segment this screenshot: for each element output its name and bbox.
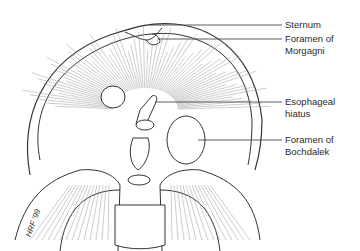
muscle-fiber <box>30 95 112 106</box>
aortic-crus <box>130 138 149 170</box>
muscle-fiber <box>102 185 106 240</box>
muscle-fiber <box>198 185 226 240</box>
muscle-fiber <box>47 103 113 108</box>
muscle-fiber <box>55 106 112 108</box>
label-esophageal-hiatus: Esophageal hiatus <box>285 96 335 120</box>
aorta-cut-end <box>128 175 150 185</box>
right-lumbar-muscle <box>160 170 260 251</box>
muscle-fiber <box>178 103 262 108</box>
muscle-fiber <box>146 50 148 88</box>
label-foramen-morgagni: Foramen of Morgagni <box>285 33 334 57</box>
muscle-fiber <box>138 32 143 88</box>
muscle-fiber <box>66 185 88 240</box>
muscle-fiber <box>164 46 212 92</box>
muscle-fiber <box>207 185 244 240</box>
muscle-fiber <box>42 185 76 240</box>
muscle-fiber <box>113 35 136 89</box>
muscle-fiber <box>171 185 172 240</box>
muscle-fiber <box>169 57 231 95</box>
muscle-fiber <box>131 45 141 89</box>
muscle-fiber <box>143 26 144 88</box>
esophagus-cut-end <box>136 120 154 130</box>
muscle-fiber <box>157 38 188 90</box>
muscle-fiber <box>109 55 132 90</box>
muscle-fiber <box>108 185 109 240</box>
muscle-fiber <box>170 56 241 96</box>
caval-foramen <box>101 86 125 108</box>
muscle-fiber <box>177 97 233 105</box>
muscle-fiber <box>167 61 211 94</box>
muscle-fiber <box>134 38 142 88</box>
vertebra <box>115 205 165 249</box>
muscle-fiber <box>178 106 271 109</box>
label-foramen-bochdalek: Foramen of Bochdalek <box>285 134 334 158</box>
muscle-fiber <box>192 185 214 240</box>
muscle-fibers <box>23 26 271 109</box>
muscle-fiber <box>54 185 82 240</box>
label-sternum: Sternum <box>285 19 321 31</box>
muscle-fiber <box>174 185 178 240</box>
muscle-fiber <box>204 185 238 240</box>
